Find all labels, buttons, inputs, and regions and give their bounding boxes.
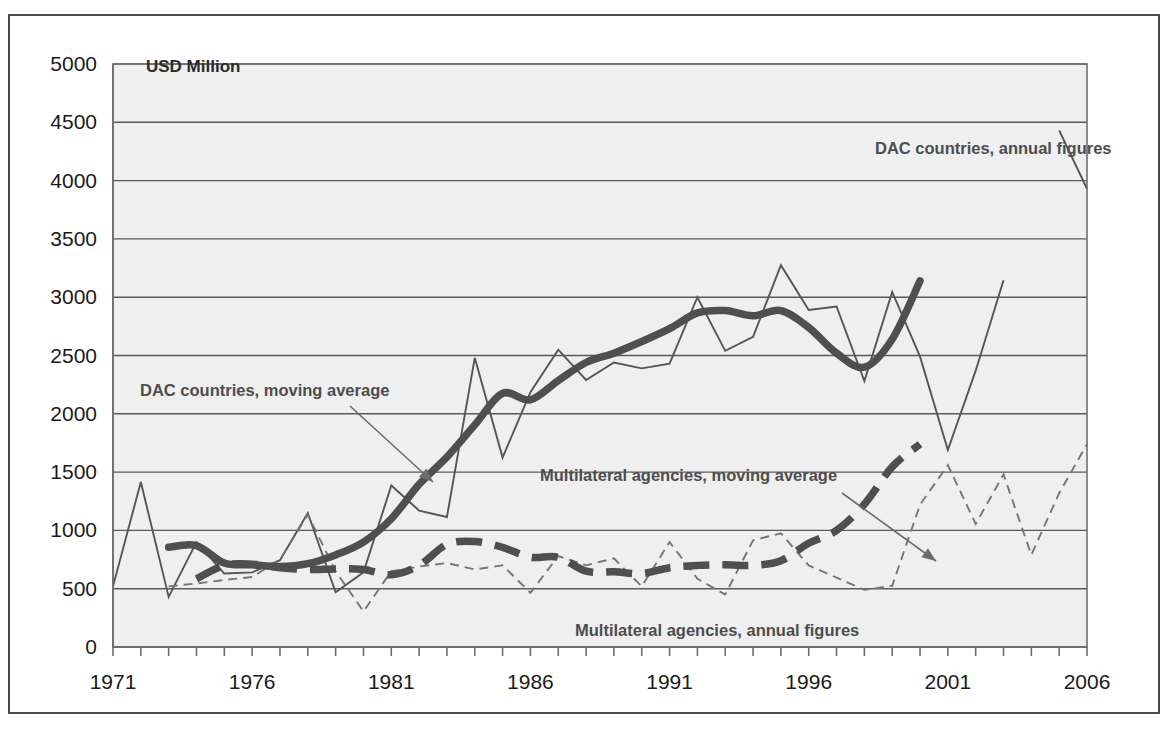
y-tick-label-1500: 1500 xyxy=(50,460,97,483)
y-axis-unit-label: USD Million xyxy=(146,57,240,76)
x-axis-tickmarks xyxy=(113,647,1087,656)
y-tick-label-2000: 2000 xyxy=(50,402,97,425)
annotation-dac-annual: DAC countries, annual figures xyxy=(875,139,1112,157)
x-tick-label-1971: 1971 xyxy=(90,670,137,693)
chart-container: 0500100015002000250030003500400045005000… xyxy=(10,16,1162,716)
y-tick-label-500: 500 xyxy=(62,577,97,600)
x-tick-label-1991: 1991 xyxy=(646,670,693,693)
y-tick-label-5000: 5000 xyxy=(50,52,97,75)
annotation-dac-moving-average: DAC countries, moving average xyxy=(140,381,389,399)
x-tick-label-1981: 1981 xyxy=(368,670,415,693)
x-axis-tick-labels: 19711976198119861991199620012006 xyxy=(90,670,1111,693)
y-tick-label-4000: 4000 xyxy=(50,169,97,192)
x-tick-label-1976: 1976 xyxy=(229,670,276,693)
line-chart: 0500100015002000250030003500400045005000… xyxy=(10,16,1162,716)
annotation-multilateral-moving-average: Multilateral agencies, moving average xyxy=(540,466,837,484)
y-tick-label-1000: 1000 xyxy=(50,518,97,541)
x-tick-label-2006: 2006 xyxy=(1064,670,1111,693)
y-tick-label-3000: 3000 xyxy=(50,285,97,308)
y-tick-label-3500: 3500 xyxy=(50,227,97,250)
y-tick-label-4500: 4500 xyxy=(50,110,97,133)
x-tick-label-1996: 1996 xyxy=(785,670,832,693)
figure-frame: 0500100015002000250030003500400045005000… xyxy=(8,14,1160,714)
x-tick-label-2001: 2001 xyxy=(924,670,971,693)
x-tick-label-1986: 1986 xyxy=(507,670,554,693)
y-tick-label-2500: 2500 xyxy=(50,344,97,367)
y-tick-label-0: 0 xyxy=(85,635,97,658)
annotation-multilateral-annual: Multilateral agencies, annual figures xyxy=(575,621,859,639)
y-axis-tick-labels: 0500100015002000250030003500400045005000 xyxy=(50,52,97,658)
